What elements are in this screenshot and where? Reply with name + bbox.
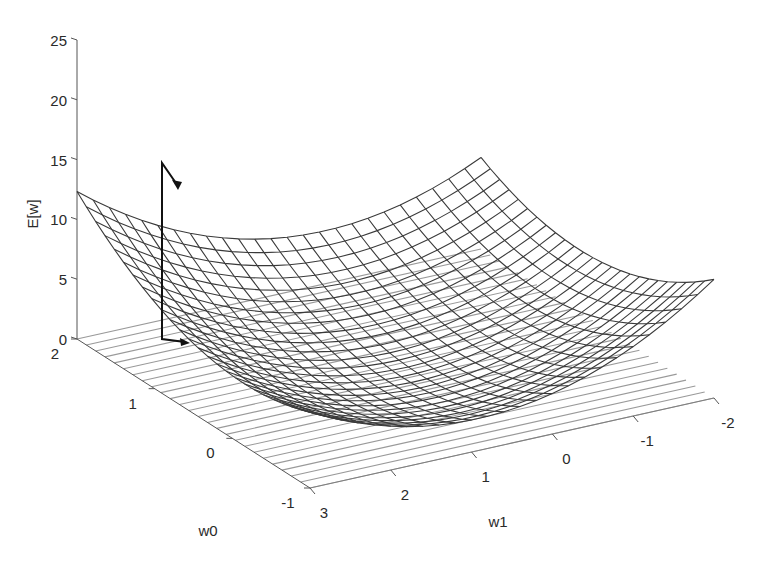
svg-text:-2: -2 [721,414,734,431]
svg-text:3: 3 [320,504,328,521]
svg-text:0: 0 [562,450,570,467]
z-axis-label: E[w] [24,199,41,228]
y-axis-label: w1 [487,513,507,530]
svg-text:-1: -1 [641,432,654,449]
svg-text:25: 25 [50,32,67,49]
svg-text:0: 0 [59,331,67,348]
surface-plot: 0510152025-10123210-1-2 E[w] w0 w1 [0,0,778,561]
svg-text:1: 1 [481,468,489,485]
svg-text:-1: -1 [281,494,294,511]
svg-text:0: 0 [206,444,214,461]
svg-text:5: 5 [59,271,67,288]
svg-text:10: 10 [50,211,67,228]
gradient-descent-trajectory [162,163,190,346]
floor-lines [77,249,714,488]
x-axis-label: w0 [197,522,217,539]
svg-text:20: 20 [50,92,67,109]
svg-text:15: 15 [50,152,67,169]
svg-text:1: 1 [128,395,136,412]
svg-text:2: 2 [401,486,409,503]
svg-text:2: 2 [51,345,59,362]
